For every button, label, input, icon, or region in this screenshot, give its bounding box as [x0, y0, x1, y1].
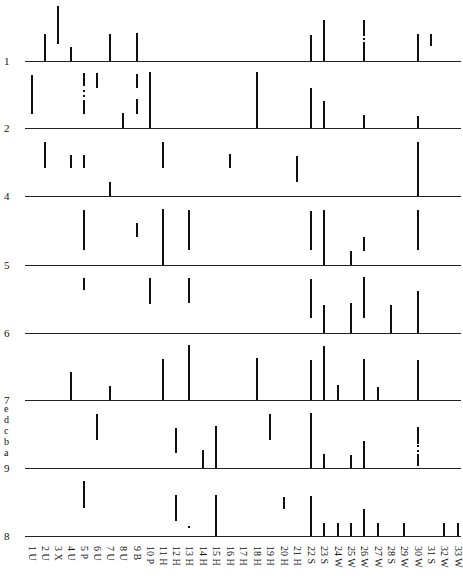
row-baseline	[25, 196, 461, 197]
x-tick-label: 24 W	[333, 546, 345, 580]
x-tick-label: 32 W	[439, 546, 451, 580]
segment	[109, 182, 111, 196]
x-tick-label: 31 S	[426, 546, 438, 580]
segment	[83, 155, 85, 168]
segment	[417, 454, 419, 466]
x-tick-text: 22 S	[306, 546, 317, 564]
x-tick-label: 17 H	[238, 546, 250, 580]
segment	[310, 496, 312, 536]
segment	[417, 445, 419, 447]
x-tick-label: 4 U	[66, 546, 78, 580]
x-tick-text: 3 X	[53, 546, 64, 561]
row-baseline	[25, 128, 461, 129]
segment	[417, 291, 419, 333]
x-tick-label: 15 H	[211, 546, 223, 580]
x-tick-label: 6 U	[92, 546, 104, 580]
x-tick-label: 33 W	[453, 546, 463, 580]
segment	[96, 73, 98, 88]
segment	[363, 42, 365, 61]
segment	[149, 278, 151, 304]
x-tick-text: 23 S	[319, 546, 330, 564]
segment	[215, 495, 217, 536]
segment	[188, 210, 190, 250]
segment	[337, 523, 339, 536]
x-tick-text: 21 H	[292, 546, 303, 566]
x-tick-text: 18 H	[252, 546, 263, 566]
x-tick-label: 1 U	[27, 546, 39, 580]
row-label: 4	[4, 191, 10, 202]
x-tick-text: 10 P	[145, 546, 156, 564]
segment	[188, 345, 190, 400]
x-tick-text: 2 U	[40, 546, 51, 561]
x-tick-text: 6 U	[92, 546, 103, 561]
segment	[162, 209, 164, 265]
x-tick-label: 19 H	[265, 546, 277, 580]
x-tick-text: 33 W	[453, 546, 463, 568]
row-label: 5	[4, 260, 10, 271]
x-tick-label: 5 P	[79, 546, 91, 580]
x-tick-text: 17 H	[238, 546, 249, 566]
row-baseline	[25, 468, 461, 469]
x-tick-label: 13 H	[184, 546, 196, 580]
row-baseline	[25, 265, 461, 266]
segment	[83, 278, 85, 290]
row-label: 1	[4, 56, 10, 67]
x-tick-label: 22 S	[306, 546, 318, 580]
segment	[175, 495, 177, 521]
segment	[310, 279, 312, 318]
segment	[350, 455, 352, 468]
segment	[149, 72, 151, 128]
segment	[350, 251, 352, 265]
x-tick-label: 18 H	[252, 546, 264, 580]
segment	[70, 155, 72, 168]
segment	[109, 34, 111, 61]
x-tick-label: 10 P	[145, 546, 157, 580]
x-tick-text: 13 H	[184, 546, 195, 566]
segment	[188, 278, 190, 303]
segment	[323, 454, 325, 468]
x-tick-text: 26 W	[359, 546, 370, 568]
segment	[83, 481, 85, 508]
segment	[323, 346, 325, 400]
x-tick-label: 28 S	[386, 546, 398, 580]
segment	[417, 450, 419, 452]
x-tick-label: 7 U	[105, 546, 117, 580]
segment	[283, 497, 285, 509]
segment	[136, 33, 138, 61]
x-tick-text: 32 W	[439, 546, 450, 568]
segment	[363, 237, 365, 251]
x-tick-label: 12 H	[171, 546, 183, 580]
x-tick-text: 31 S	[426, 546, 437, 564]
segment	[363, 20, 365, 36]
segment	[363, 509, 365, 536]
segment	[323, 305, 325, 333]
segment	[136, 223, 138, 237]
segment	[417, 142, 419, 196]
segment	[390, 305, 392, 333]
segment	[188, 526, 190, 528]
x-tick-text: 5 P	[79, 546, 90, 559]
x-tick-text: 12 H	[171, 546, 182, 566]
segment	[83, 210, 85, 250]
segment	[83, 100, 85, 114]
segment	[96, 414, 98, 440]
segment	[417, 34, 419, 61]
x-tick-text: 27 W	[373, 546, 384, 568]
x-tick-text: 20 H	[279, 546, 290, 566]
segment	[162, 359, 164, 400]
row-label: 2	[4, 123, 10, 134]
segment	[417, 210, 419, 250]
segment	[310, 35, 312, 61]
segment	[443, 523, 445, 536]
segment	[417, 116, 419, 128]
segment	[136, 74, 138, 88]
segment	[215, 426, 217, 468]
segment	[417, 427, 419, 444]
x-tick-label: 14 H	[198, 546, 210, 580]
segment	[229, 154, 231, 168]
segment	[122, 113, 124, 128]
x-tick-label: 8 U	[118, 546, 130, 580]
segment	[162, 142, 164, 168]
x-tick-label: 26 W	[359, 546, 371, 580]
segment	[457, 523, 459, 536]
